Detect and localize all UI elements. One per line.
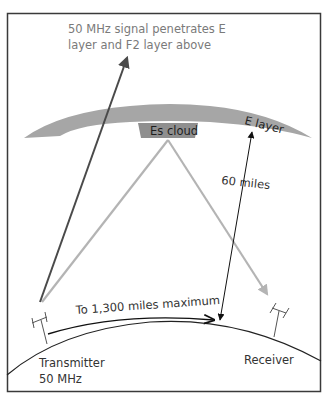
es-cloud-label: Es cloud <box>150 124 198 138</box>
sporadic-e-propagation-diagram: 50 MHz signal penetrates E layer and F2 … <box>0 0 329 399</box>
annotation-line-2: layer and F2 layer above <box>68 38 211 52</box>
transmitter-frequency-label: 50 MHz <box>39 372 82 386</box>
receiver-label: Receiver <box>244 353 294 367</box>
frame <box>8 14 321 392</box>
transmitter-label: Transmitter <box>38 356 105 370</box>
annotation-line-1: 50 MHz signal penetrates E <box>68 22 226 36</box>
